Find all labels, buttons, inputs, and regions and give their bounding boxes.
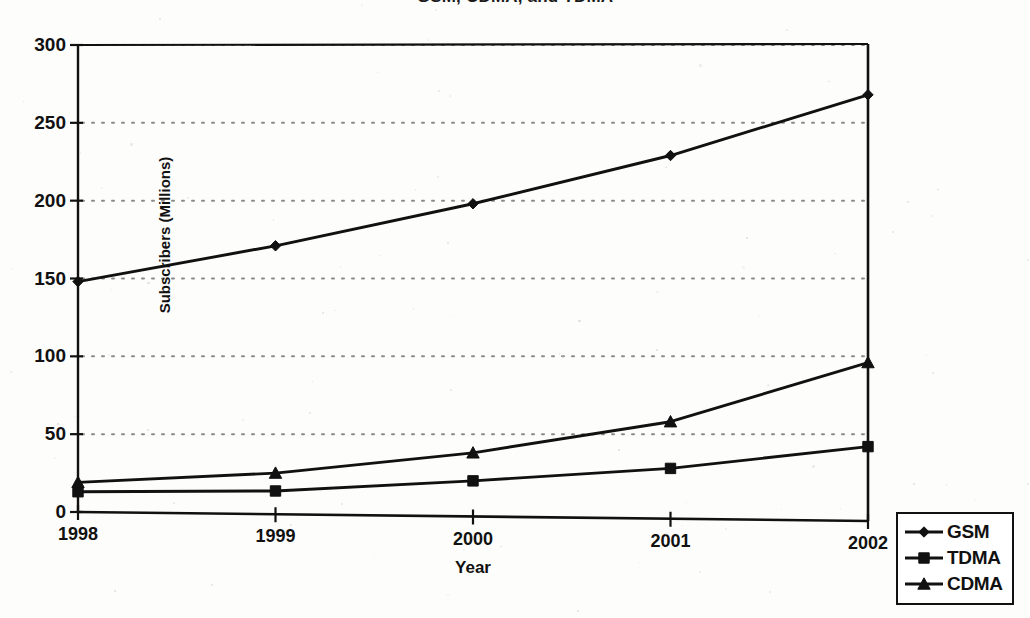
legend-label: GSM bbox=[947, 521, 989, 543]
legend-item-cdma[interactable]: CDMA bbox=[904, 571, 1003, 597]
x-axis-tick-label: 1999 bbox=[255, 526, 295, 547]
y-axis-tick-label: 0 bbox=[55, 501, 66, 523]
x-axis-title: Year bbox=[78, 558, 868, 578]
y-axis-tick-label: 150 bbox=[34, 268, 66, 290]
legend-item-tdma[interactable]: TDMA bbox=[904, 545, 1003, 571]
y-axis-tick-label: 100 bbox=[34, 345, 66, 367]
chart-legend: GSMTDMACDMA bbox=[896, 512, 1014, 605]
x-axis-tick-label: 1998 bbox=[58, 524, 98, 545]
diamond-marker-icon bbox=[904, 522, 944, 542]
x-axis-tick-label: 2001 bbox=[650, 531, 690, 552]
y-axis-title: Subscribers (Millions) bbox=[156, 85, 173, 385]
legend-label: CDMA bbox=[947, 573, 1003, 595]
y-axis-tick-label: 300 bbox=[34, 34, 66, 56]
legend-item-gsm[interactable]: GSM bbox=[904, 519, 1003, 545]
y-axis-tick-label: 50 bbox=[45, 423, 66, 445]
plot-graphics bbox=[0, 0, 1030, 618]
x-axis-tick-label: 2002 bbox=[848, 533, 888, 554]
square-marker-icon bbox=[904, 548, 944, 568]
triangle-marker-icon bbox=[904, 574, 944, 594]
y-axis-tick-label: 250 bbox=[34, 112, 66, 134]
legend-label: TDMA bbox=[947, 547, 1001, 569]
plot-area: Subscribers (Millions) Year 050100150200… bbox=[78, 45, 868, 512]
chart-screenshot: GSM, CDMA, and TDMA Subscribers (Million… bbox=[0, 0, 1030, 618]
x-axis-tick-label: 2000 bbox=[453, 529, 493, 550]
y-axis-tick-label: 200 bbox=[34, 190, 66, 212]
